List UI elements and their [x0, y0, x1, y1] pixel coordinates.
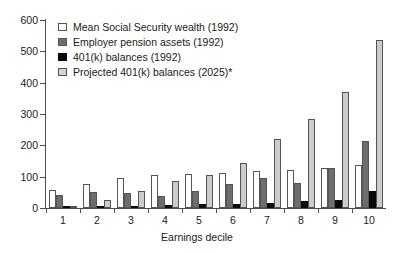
- x-axis-tick: [114, 208, 115, 213]
- legend-item: Employer pension assets (1992): [58, 35, 238, 48]
- y-axis-tick-label: 200: [0, 140, 38, 150]
- bar: [117, 178, 124, 208]
- x-axis-tick: [318, 208, 319, 213]
- x-axis-tick-label: 8: [286, 214, 316, 226]
- bar: [294, 183, 301, 208]
- x-axis-tick-label: 4: [150, 214, 180, 226]
- bar: [274, 139, 281, 208]
- x-axis-tick-label: 1: [48, 214, 78, 226]
- legend-item-label: Mean Social Security wealth (1992): [73, 21, 238, 33]
- bar: [342, 92, 349, 208]
- bar: [376, 40, 383, 208]
- bar: [335, 200, 342, 208]
- x-axis-tick-label: 9: [320, 214, 350, 226]
- x-axis-tick-label: 3: [116, 214, 146, 226]
- bar: [355, 165, 362, 208]
- y-axis-tick-label: 600: [0, 15, 38, 25]
- bar: [83, 184, 90, 208]
- x-axis-tick: [250, 208, 251, 213]
- bar: [90, 192, 97, 208]
- bar-group: [321, 20, 349, 208]
- legend-item: Mean Social Security wealth (1992): [58, 20, 238, 33]
- bar: [287, 170, 294, 208]
- bar: [260, 178, 267, 208]
- x-axis-tick-label: 7: [252, 214, 282, 226]
- legend-swatch-open: [58, 23, 67, 31]
- y-axis-tick-label: 100: [0, 172, 38, 182]
- legend-item-label: Projected 401(k) balances (2025)*: [73, 66, 232, 78]
- x-axis-tick: [352, 208, 353, 213]
- bar: [328, 168, 335, 208]
- bar: [308, 119, 315, 208]
- x-axis-tick-label: 5: [184, 214, 214, 226]
- y-axis-labels: 0100200300400500600: [0, 0, 38, 253]
- x-axis-tick: [80, 208, 81, 213]
- bar-group: [355, 20, 383, 208]
- x-axis-tick: [46, 208, 47, 213]
- bar: [63, 206, 70, 208]
- bar: [226, 184, 233, 208]
- bar: [158, 196, 165, 208]
- legend-item: 401(k) balances (1992): [58, 50, 238, 63]
- bar: [185, 174, 192, 208]
- y-axis-tick-label: 400: [0, 78, 38, 88]
- bar: [97, 206, 104, 208]
- legend-swatch-black: [58, 53, 67, 61]
- bar: [49, 190, 56, 208]
- bar: [172, 181, 179, 208]
- bar: [138, 191, 145, 208]
- x-axis-tick: [216, 208, 217, 213]
- bar: [321, 168, 328, 208]
- legend-item-label: Employer pension assets (1992): [73, 36, 224, 48]
- bar: [124, 193, 131, 208]
- bar-group: [253, 20, 281, 208]
- bar-group: [287, 20, 315, 208]
- bar: [362, 141, 369, 208]
- bar: [233, 204, 240, 208]
- legend-item: Projected 401(k) balances (2025)*: [58, 65, 238, 78]
- bar: [253, 171, 260, 208]
- x-axis-tick: [182, 208, 183, 213]
- x-axis-title: Earnings decile: [0, 231, 394, 243]
- x-axis-tick: [284, 208, 285, 213]
- bar: [199, 204, 206, 208]
- chart-legend: Mean Social Security wealth (1992)Employ…: [58, 20, 238, 78]
- bar: [219, 173, 226, 208]
- bar: [131, 206, 138, 208]
- bar: [240, 163, 247, 208]
- bar: [369, 191, 376, 208]
- chart-container: 0100200300400500600 12345678910 Earnings…: [0, 0, 394, 253]
- bar: [104, 200, 111, 208]
- bar: [165, 205, 172, 208]
- y-axis-tick-label: 500: [0, 46, 38, 56]
- bar: [267, 203, 274, 208]
- bar: [192, 191, 199, 208]
- x-axis-tick-label: 10: [354, 214, 384, 226]
- legend-swatch-dark-gray: [58, 38, 67, 46]
- x-axis-tick-label: 6: [218, 214, 248, 226]
- bar: [70, 206, 77, 208]
- x-axis-tick: [148, 208, 149, 213]
- x-axis-tick-label: 2: [82, 214, 112, 226]
- bar: [206, 175, 213, 208]
- legend-swatch-light-gray: [58, 68, 67, 76]
- bar: [301, 201, 308, 208]
- y-axis-tick-label: 0: [0, 203, 38, 213]
- y-axis-tick-label: 300: [0, 109, 38, 119]
- legend-item-label: 401(k) balances (1992): [73, 51, 181, 63]
- bar: [151, 175, 158, 208]
- bar: [56, 195, 63, 208]
